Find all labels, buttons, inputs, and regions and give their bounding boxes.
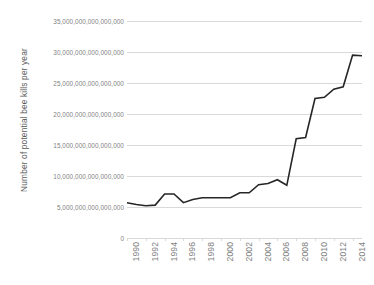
y-axis-tick-label: 0 bbox=[120, 235, 124, 242]
y-axis-tick-labels: 05,000,000,000,000,00010,000,000,000,000… bbox=[30, 0, 124, 285]
y-axis-tick-label: 35,000,000,000,000,000 bbox=[53, 18, 124, 25]
y-axis-tick-label: 30,000,000,000,000,000 bbox=[53, 49, 124, 56]
y-axis-title: Number of potential bee kills per year bbox=[12, 0, 36, 240]
y-axis-tick-label: 25,000,000,000,000,000 bbox=[53, 80, 124, 87]
x-axis-tick-label: 1998 bbox=[206, 242, 216, 261]
data-series-line bbox=[127, 55, 362, 206]
x-axis-tick-label: 2004 bbox=[263, 242, 273, 261]
plot-area bbox=[127, 21, 362, 238]
y-axis-tick-label: 5,000,000,000,000,000 bbox=[57, 204, 124, 211]
x-axis-tick-label: 1996 bbox=[187, 242, 197, 261]
x-axis-tick-label: 2006 bbox=[281, 242, 291, 261]
y-axis-tick-label: 20,000,000,000,000,000 bbox=[53, 111, 124, 118]
bee-kills-line-chart: Number of potential bee kills per year 0… bbox=[0, 0, 374, 285]
x-axis-tick-label: 2014 bbox=[357, 242, 367, 261]
x-axis-tick-label: 2010 bbox=[319, 242, 329, 261]
x-axis-tick-label: 2008 bbox=[300, 242, 310, 261]
y-axis-title-label: Number of potential bee kills per year bbox=[19, 48, 29, 192]
x-axis-tick-label: 1994 bbox=[169, 242, 179, 261]
x-axis-tick-label: 2012 bbox=[338, 242, 348, 261]
y-axis-tick-label: 10,000,000,000,000,000 bbox=[53, 173, 124, 180]
x-axis-tick-label: 1992 bbox=[150, 242, 160, 261]
plot-svg bbox=[127, 21, 362, 238]
x-axis-tick-label: 2002 bbox=[244, 242, 254, 261]
gridline bbox=[127, 238, 362, 239]
x-axis-tick-labels: 1990199219941996199820002002200420062008… bbox=[127, 240, 362, 285]
y-axis-tick-label: 15,000,000,000,000,000 bbox=[53, 142, 124, 149]
x-axis-tick-label: 2000 bbox=[225, 242, 235, 261]
x-axis-tick-label: 1990 bbox=[131, 242, 141, 261]
